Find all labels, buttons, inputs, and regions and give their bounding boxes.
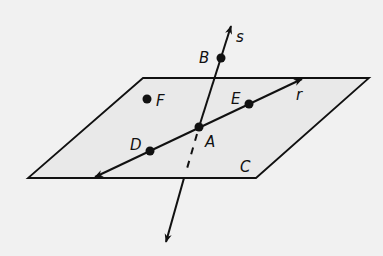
point-a — [195, 123, 204, 132]
point-b — [217, 54, 226, 63]
line-s-lower — [166, 178, 184, 242]
label-d: D — [130, 136, 142, 154]
label-a: A — [204, 133, 215, 151]
label-r: r — [296, 86, 303, 104]
label-f: F — [156, 92, 165, 110]
label-c: C — [240, 158, 251, 176]
point-d — [146, 147, 155, 156]
label-e: E — [231, 90, 241, 108]
geometry-figure: s B F E r A D C — [0, 0, 383, 256]
diagram-canvas: s B F E r A D C — [0, 0, 383, 256]
label-b: B — [199, 49, 209, 67]
label-s: s — [236, 28, 244, 46]
point-f — [143, 95, 152, 104]
point-e — [245, 100, 254, 109]
